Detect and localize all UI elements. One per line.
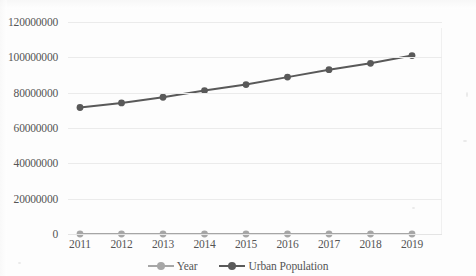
gridline xyxy=(68,57,442,58)
legend-label: Year xyxy=(177,260,198,272)
line-chart: 0200000004000000060000000800000001000000… xyxy=(0,0,476,276)
legend-marker-icon xyxy=(219,261,245,271)
y-axis-tick-label: 20000000 xyxy=(14,193,58,205)
plot-area xyxy=(68,22,442,234)
gridline xyxy=(68,163,442,164)
y-axis-tick-label: 60000000 xyxy=(14,122,58,134)
scan-speck xyxy=(412,207,415,209)
gridline xyxy=(68,22,442,23)
series-urban-population xyxy=(77,52,416,111)
legend-marker-icon xyxy=(148,261,174,271)
scan-artifact-top xyxy=(0,0,476,9)
legend-label: Urban Population xyxy=(248,260,328,272)
gridline xyxy=(68,199,442,200)
x-axis-labels: 201120122013201420152016201720182019 xyxy=(68,238,442,254)
x-axis-tick-label: 2013 xyxy=(152,238,174,250)
data-point-marker xyxy=(284,74,291,81)
data-point-marker xyxy=(367,60,374,67)
x-axis-tick-label: 2015 xyxy=(235,238,257,250)
gridline xyxy=(68,234,442,235)
x-axis-tick-label: 2019 xyxy=(401,238,423,250)
x-axis-tick-label: 2012 xyxy=(110,238,132,250)
y-axis-tick-label: 40000000 xyxy=(14,157,58,169)
data-point-marker xyxy=(326,66,333,73)
legend-dot xyxy=(228,262,236,270)
legend-item-urban-population[interactable]: Urban Population xyxy=(219,260,328,272)
gridline xyxy=(68,128,442,129)
legend-item-year[interactable]: Year xyxy=(148,260,198,272)
scan-speck xyxy=(466,92,468,97)
scan-speck xyxy=(18,262,21,264)
x-axis-tick-label: 2016 xyxy=(276,238,298,250)
y-axis-tick-label: 0 xyxy=(52,228,58,240)
data-point-marker xyxy=(77,104,84,111)
y-axis-tick-label: 100000000 xyxy=(8,51,58,63)
x-axis-tick-label: 2011 xyxy=(69,238,91,250)
legend-dot xyxy=(157,262,165,270)
x-axis-tick-label: 2017 xyxy=(318,238,340,250)
data-point-marker xyxy=(118,100,125,107)
y-axis-labels: 0200000004000000060000000800000001000000… xyxy=(0,22,64,234)
gridline xyxy=(68,93,442,94)
scan-speck xyxy=(463,140,467,142)
y-axis-tick-label: 120000000 xyxy=(8,16,58,28)
x-axis-tick-label: 2018 xyxy=(359,238,381,250)
data-point-marker xyxy=(160,94,167,101)
data-point-marker xyxy=(243,81,250,88)
chart-legend: YearUrban Population xyxy=(0,256,476,276)
y-axis-tick-label: 80000000 xyxy=(14,87,58,99)
x-axis-tick-label: 2014 xyxy=(193,238,215,250)
